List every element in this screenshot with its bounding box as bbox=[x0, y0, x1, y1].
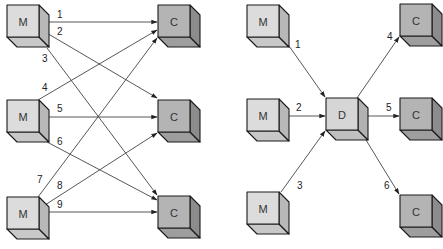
right-node-m1: M bbox=[247, 5, 289, 47]
left-edge-4 bbox=[38, 30, 157, 100]
right-node-m2-label: M bbox=[258, 110, 267, 122]
right-node-c3-label: C bbox=[412, 206, 420, 218]
left-diagram-edges bbox=[38, 22, 157, 212]
left-edge-label-7: 7 bbox=[37, 174, 43, 185]
diagram-canvas: 1 2 3 4 5 6 7 8 9 M M M C bbox=[0, 0, 443, 249]
left-node-c3: C bbox=[158, 196, 200, 238]
left-edge-label-3: 3 bbox=[42, 53, 48, 64]
right-edge-label-2: 2 bbox=[296, 102, 302, 113]
right-node-c1-label: C bbox=[412, 15, 420, 27]
right-node-m1-label: M bbox=[258, 16, 267, 28]
right-edge-label-4: 4 bbox=[387, 31, 393, 42]
right-edge-6 bbox=[366, 140, 399, 194]
left-node-m3-label: M bbox=[18, 208, 27, 220]
left-edge-label-2: 2 bbox=[57, 26, 63, 37]
right-edge-label-1: 1 bbox=[295, 39, 301, 50]
left-edge-label-6: 6 bbox=[57, 136, 63, 147]
right-edge-label-5: 5 bbox=[386, 102, 392, 113]
left-edge-label-5: 5 bbox=[57, 103, 63, 114]
left-edge-2 bbox=[45, 32, 157, 98]
left-edge-6 bbox=[47, 142, 157, 200]
left-node-c1: C bbox=[158, 5, 200, 47]
right-edge-label-3: 3 bbox=[297, 180, 303, 191]
left-node-m3: M bbox=[7, 197, 49, 239]
right-node-c2-label: C bbox=[412, 109, 420, 121]
right-node-m3-label: M bbox=[258, 203, 267, 215]
right-node-d-label: D bbox=[338, 109, 346, 121]
left-node-c2: C bbox=[158, 100, 200, 142]
left-edge-label-8: 8 bbox=[57, 180, 63, 191]
left-edge-7 bbox=[38, 38, 157, 197]
right-node-c3: C bbox=[400, 195, 442, 237]
left-edge-label-4: 4 bbox=[42, 82, 48, 93]
right-node-c1: C bbox=[400, 4, 442, 46]
left-edge-3 bbox=[47, 48, 157, 195]
left-node-m2: M bbox=[7, 100, 49, 142]
right-node-d: D bbox=[326, 98, 368, 140]
left-node-c3-label: C bbox=[170, 207, 178, 219]
left-edge-label-1: 1 bbox=[57, 9, 63, 20]
left-node-c2-label: C bbox=[170, 111, 178, 123]
right-edge-label-6: 6 bbox=[384, 180, 390, 191]
left-node-m1-label: M bbox=[18, 16, 27, 28]
right-node-m2: M bbox=[247, 99, 289, 141]
left-node-m1: M bbox=[7, 5, 49, 47]
left-edge-label-9: 9 bbox=[57, 199, 63, 210]
right-node-c2: C bbox=[400, 98, 442, 140]
right-edge-4 bbox=[357, 37, 399, 98]
right-edge-1 bbox=[289, 46, 325, 97]
left-node-m2-label: M bbox=[18, 111, 27, 123]
right-node-m3: M bbox=[247, 192, 289, 234]
left-node-c1-label: C bbox=[170, 16, 178, 28]
